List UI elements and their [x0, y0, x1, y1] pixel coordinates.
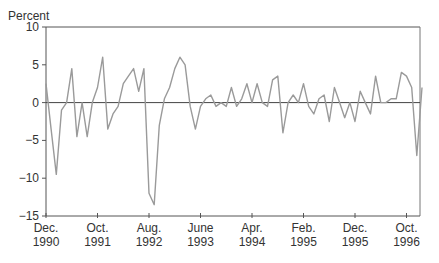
x-axis: Dec.1990Oct.1991Aug.1992June1993Apr.1994… [33, 213, 421, 249]
y-tick-label: −5 [25, 133, 39, 147]
x-tick-year: 1995 [290, 235, 317, 249]
x-tick-year: 1994 [239, 235, 266, 249]
x-tick-month: Apr. [241, 221, 262, 235]
x-tick-year: 1995 [342, 235, 369, 249]
x-tick-month: Oct. [86, 221, 108, 235]
series-line [46, 57, 422, 205]
y-tick-label: 5 [32, 58, 39, 72]
x-tick-year: 1992 [136, 235, 163, 249]
x-tick-month: Feb. [291, 221, 315, 235]
line-chart: Percent 1050−5−10−15 Dec.1990Oct.1991Aug… [0, 0, 439, 263]
x-tick-year: 1993 [187, 235, 214, 249]
y-tick-label: 0 [32, 96, 39, 110]
x-tick-year: 1991 [84, 235, 111, 249]
x-tick-month: Dec. [343, 221, 368, 235]
x-tick-year: 1990 [33, 235, 60, 249]
x-tick-month: Aug. [137, 221, 162, 235]
y-tick-label: 10 [26, 20, 40, 34]
x-tick-month: Oct. [395, 221, 417, 235]
x-tick-month: Dec. [34, 221, 59, 235]
plot-frame [46, 27, 420, 216]
x-tick-month: June [187, 221, 213, 235]
y-tick-label: −10 [19, 171, 40, 185]
data-series [46, 57, 422, 205]
y-axis: 1050−5−10−15 [19, 20, 46, 223]
x-tick-year: 1996 [393, 235, 420, 249]
